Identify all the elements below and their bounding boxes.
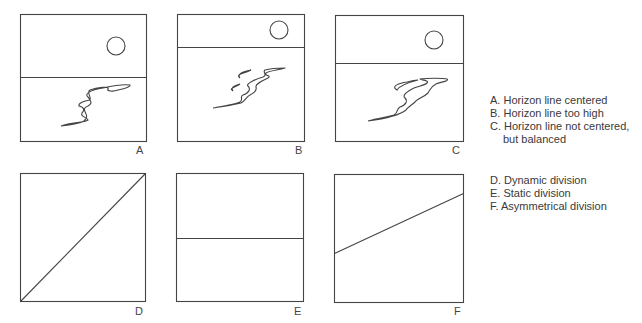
panel-e-frame xyxy=(177,174,304,302)
legend-item: E. Static division xyxy=(490,187,607,200)
composition-diagrams xyxy=(0,0,642,323)
panel-f-label: F xyxy=(454,305,461,317)
legend-horizon: A. Horizon line centered B. Horizon line… xyxy=(490,94,629,146)
panel-e-label: E xyxy=(294,305,301,317)
panel-d-diagonal xyxy=(21,174,146,302)
panel-e xyxy=(177,174,304,302)
legend-division: D. Dynamic division E. Static division F… xyxy=(490,174,607,213)
legend-item: B. Horizon line too high xyxy=(490,107,629,120)
panel-b xyxy=(178,15,305,142)
river-icon xyxy=(368,78,448,121)
panel-d xyxy=(21,174,146,302)
panel-b-label: B xyxy=(295,144,302,156)
panel-c-label: C xyxy=(452,144,460,156)
sun-icon xyxy=(425,31,443,49)
panel-f-frame xyxy=(335,175,464,303)
legend-item: C. Horizon line not centered, xyxy=(490,120,629,133)
legend-item: F. Asymmetrical division xyxy=(490,200,607,213)
panel-b-frame xyxy=(178,15,305,142)
panel-d-label: D xyxy=(135,305,143,317)
panel-f xyxy=(335,175,464,303)
sun-icon xyxy=(107,37,125,55)
legend-item-continuation: but balanced xyxy=(490,133,629,146)
panel-c xyxy=(336,16,464,142)
sun-icon xyxy=(270,21,288,39)
panel-a xyxy=(21,15,147,142)
legend-item: D. Dynamic division xyxy=(490,174,607,187)
river-icon xyxy=(213,68,285,108)
river-icon xyxy=(61,85,130,126)
legend-item: A. Horizon line centered xyxy=(490,94,629,107)
panel-a-label: A xyxy=(136,144,143,156)
panel-f-slant xyxy=(335,194,464,254)
